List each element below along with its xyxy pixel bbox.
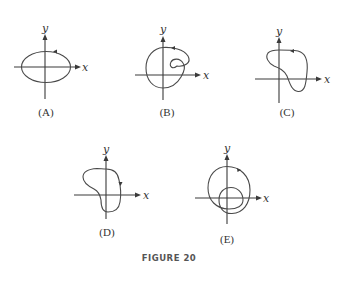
- x-axis-arrow-icon: [75, 65, 81, 70]
- y-axis-label: y: [275, 25, 283, 38]
- x-axis-label: x: [324, 73, 331, 86]
- y-axis-label: y: [223, 142, 231, 155]
- panel-label: (B): [160, 106, 175, 119]
- direction-arrow-icon: [290, 49, 294, 53]
- y-axis-label: y: [159, 23, 167, 36]
- panel-label: (C): [280, 106, 295, 119]
- panel-label: (A): [38, 106, 54, 119]
- figure-canvas: x y (A) x y (B) x y (C) x y: [0, 0, 348, 285]
- figure-caption: FIGURE 20: [142, 253, 197, 263]
- panel-label: (D): [99, 226, 115, 239]
- panel-d: x y (D): [74, 143, 150, 239]
- panel-label: (E): [220, 233, 234, 246]
- x-axis-label: x: [143, 189, 150, 202]
- y-axis-arrow-icon: [161, 36, 166, 42]
- x-axis-arrow-icon: [316, 77, 322, 82]
- curve-d: [83, 169, 121, 213]
- direction-arrow-icon: [237, 168, 241, 172]
- curve-b: [146, 47, 189, 88]
- panel-a: x y (A): [14, 22, 89, 119]
- curve-e: [208, 167, 250, 214]
- x-axis-arrow-icon: [135, 193, 141, 198]
- y-axis-label: y: [102, 143, 110, 156]
- x-axis-arrow-icon: [195, 73, 201, 78]
- panel-c: x y (C): [255, 25, 331, 119]
- panel-b: x y (B): [135, 23, 210, 119]
- x-axis-label: x: [203, 69, 210, 82]
- panel-e: x y (E): [195, 142, 270, 246]
- x-axis-label: x: [263, 192, 270, 205]
- direction-arrow-icon: [171, 46, 175, 50]
- direction-arrow-icon: [119, 182, 123, 186]
- x-axis-arrow-icon: [256, 196, 262, 201]
- y-axis-label: y: [41, 22, 49, 35]
- x-axis-label: x: [82, 61, 89, 74]
- curve-c: [267, 50, 307, 92]
